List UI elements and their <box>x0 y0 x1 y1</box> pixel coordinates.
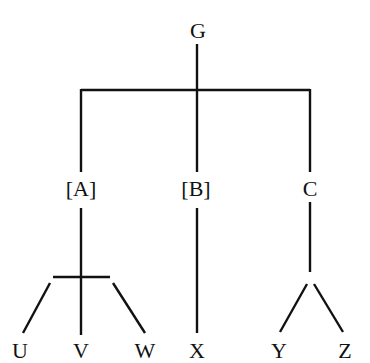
node-a: [A] <box>66 176 97 201</box>
edge-a-w <box>113 283 145 333</box>
node-b: [B] <box>181 176 210 201</box>
node-y: Y <box>271 338 287 363</box>
node-x: X <box>189 338 205 363</box>
node-c: C <box>303 176 318 201</box>
node-v: V <box>73 338 89 363</box>
node-g: G <box>190 18 206 43</box>
node-u: U <box>12 338 28 363</box>
edge-a-u <box>23 283 50 333</box>
edge-c-y <box>280 284 307 332</box>
edge-c-z <box>314 284 343 332</box>
node-z: Z <box>338 338 351 363</box>
tree-diagram: G [A] [B] C U V W X Y Z <box>0 0 370 363</box>
node-w: W <box>135 338 156 363</box>
